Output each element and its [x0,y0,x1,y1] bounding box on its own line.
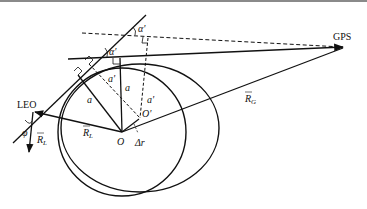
alpha-prime-middle-label: α' [109,46,117,57]
phi-angle-arc [25,120,32,123]
alpha-prime-upper-label: α' [138,23,146,34]
leo-label: LEO [17,99,36,110]
vector-r-l-direction [29,112,33,152]
radius-a-prime-vertical [140,38,148,118]
radius-a-vertical [120,58,122,132]
delta-r-leader [134,124,138,133]
a-left-label: a [87,94,92,105]
r-l-center-label: RL [82,127,93,140]
delta-r-vector [122,119,139,132]
vector-r-g [122,48,343,132]
phi-label: φ [22,127,28,138]
tangent-line [13,15,146,143]
right-angle-marker [85,56,93,64]
a-prime-vertical-label: a' [147,94,155,105]
alpha-angle-arc-upper [133,27,136,35]
r-g-label: RG [244,93,256,106]
gps-label: GPS [333,31,351,42]
right-angle-marker [74,67,82,75]
origin-label: O [117,136,124,147]
dashed-ray-to-gps [82,33,342,47]
a-prime-dashed-label: a' [108,73,116,84]
occultation-geometry-diagram: GPS LEO O O' RG RL RL Δr φ α' α' a' a' a… [0,0,367,209]
delta-r-label: Δr [134,137,145,148]
r-l-side-label: RL [36,134,47,147]
a-vertical-label: a [125,82,130,93]
origin-prime-label: O' [142,108,152,119]
right-angle-marker [113,58,120,64]
right-angle-marker [142,37,148,43]
